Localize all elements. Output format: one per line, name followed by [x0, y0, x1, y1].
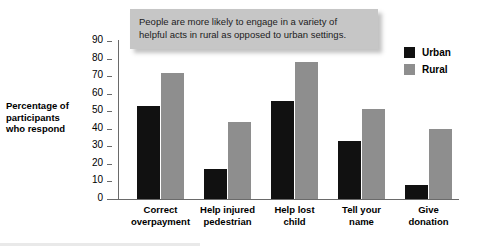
x-axis-line	[107, 199, 459, 200]
y-axis-tick-mark	[107, 181, 112, 182]
y-axis-tick-mark	[107, 94, 112, 95]
y-axis-tick-label: 70	[92, 69, 103, 80]
annotation-callout-text: People are more likely to engage in a va…	[139, 16, 369, 41]
bar-rural-4	[362, 109, 385, 199]
y-axis-title-line-1: Percentage of	[6, 100, 92, 112]
bar-rural-5	[429, 129, 452, 199]
y-axis-tick-label: 90	[92, 34, 103, 45]
y-axis-title-line-2: participants	[6, 112, 92, 124]
y-axis-tick-mark	[107, 76, 112, 77]
legend-swatch-urban	[404, 47, 415, 58]
y-axis-tick-label: 10	[92, 174, 103, 185]
y-axis-tick-mark	[107, 146, 112, 147]
annotation-callout: People are more likely to engage in a va…	[130, 9, 378, 49]
legend-item-rural: Rural	[404, 61, 451, 78]
chart-legend: UrbanRural	[404, 44, 451, 78]
bar-rural-1	[161, 73, 184, 199]
bar-chart-figure: Percentage of participants who respond 9…	[0, 0, 478, 249]
y-axis-tick-mark	[107, 199, 112, 200]
x-axis-label-5-line-1: Give	[390, 204, 468, 216]
bar-urban-4	[338, 141, 361, 199]
y-axis-tick-label: 60	[92, 87, 103, 98]
bar-urban-3	[271, 101, 294, 199]
y-axis-title: Percentage of participants who respond	[6, 100, 92, 135]
legend-swatch-rural	[404, 64, 415, 75]
y-axis-tick-label: 20	[92, 157, 103, 168]
bar-urban-5	[405, 185, 428, 199]
y-axis-tick-mark	[107, 59, 112, 60]
y-axis-tick-label: 40	[92, 122, 103, 133]
bar-rural-2	[228, 122, 251, 199]
bottom-edge-band	[0, 243, 200, 246]
bar-urban-2	[204, 169, 227, 199]
x-axis-label-5: Givedonation	[390, 204, 468, 228]
annotation-line-1: People are more likely to engage in a va…	[139, 16, 369, 29]
y-axis-tick-label: 80	[92, 52, 103, 63]
y-axis-title-line-3: who respond	[6, 123, 92, 135]
y-axis-tick-label: 0	[98, 192, 103, 203]
y-axis-tick-mark	[107, 111, 112, 112]
y-axis-tick-mark	[107, 41, 112, 42]
x-axis-label-5-line-2: donation	[390, 216, 468, 228]
legend-item-urban: Urban	[404, 44, 451, 61]
legend-label-urban: Urban	[422, 47, 451, 58]
bar-rural-3	[295, 62, 318, 199]
y-axis-tick-mark	[107, 164, 112, 165]
y-axis-tick-label: 30	[92, 139, 103, 150]
bar-urban-1	[137, 106, 160, 199]
annotation-line-2: helpful acts in rural as opposed to urba…	[139, 29, 369, 42]
legend-label-rural: Rural	[422, 64, 448, 75]
y-axis-tick-label: 50	[92, 104, 103, 115]
y-axis-tick-mark	[107, 129, 112, 130]
